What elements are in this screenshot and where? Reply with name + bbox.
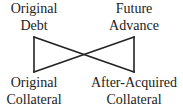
node-original-collateral-line2: Collateral xyxy=(6,91,61,108)
node-after-acquired-collateral: After-Acquired Collateral xyxy=(91,74,177,108)
node-after-acquired-collateral-line2: Collateral xyxy=(91,91,177,108)
node-original-collateral: Original Collateral xyxy=(6,74,61,108)
node-original-collateral-line1: Original xyxy=(6,74,61,91)
node-after-acquired-collateral-line1: After-Acquired xyxy=(91,74,177,91)
